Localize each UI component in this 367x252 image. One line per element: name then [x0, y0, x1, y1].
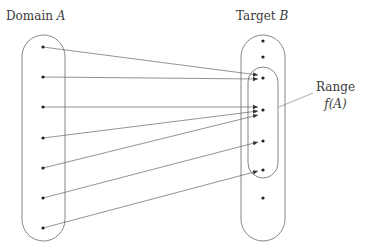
domain-points — [41, 45, 44, 229]
range-set-outline — [248, 67, 278, 178]
domain-point-a5 — [41, 166, 44, 169]
domain-point-a3 — [41, 105, 44, 108]
mapping-arrows — [43, 47, 258, 228]
target-points — [261, 39, 264, 199]
mapping-arrow-a4-b4 — [43, 111, 258, 138]
target-point-b5 — [261, 139, 264, 142]
domain-point-a6 — [41, 196, 44, 199]
target-point-b4 — [261, 108, 264, 111]
domain-point-a2 — [41, 75, 44, 78]
mapping-arrow-a6-b5 — [43, 142, 258, 198]
target-point-b7 — [261, 196, 264, 199]
target-point-b1 — [261, 39, 264, 42]
function-mapping-diagram — [0, 0, 367, 252]
mapping-arrow-a2-b3 — [43, 77, 258, 79]
target-point-b6 — [261, 168, 264, 171]
mapping-arrow-a1-b3 — [43, 47, 258, 75]
mapping-arrow-a5-b4 — [43, 115, 258, 168]
range-leader-line — [279, 93, 313, 107]
target-point-b3 — [261, 76, 264, 79]
domain-point-a4 — [41, 136, 44, 139]
mapping-arrow-a7-b6 — [43, 171, 258, 228]
target-point-b2 — [261, 55, 264, 58]
domain-point-a1 — [41, 45, 44, 48]
domain-point-a7 — [41, 226, 44, 229]
